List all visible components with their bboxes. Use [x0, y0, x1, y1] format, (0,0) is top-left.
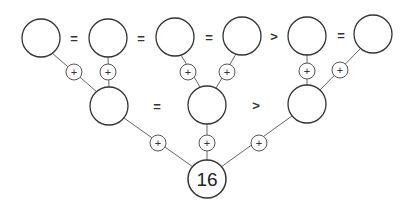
- node-t4[interactable]: [223, 17, 261, 55]
- node-m3[interactable]: [288, 85, 326, 123]
- operator-m2-m3: >: [252, 98, 260, 113]
- operator-t2-t3: =: [137, 31, 145, 46]
- plus-icon: +: [155, 137, 161, 149]
- operator-t4-t5: >: [270, 29, 278, 44]
- plus-icon: +: [337, 64, 343, 76]
- plus-icon: +: [204, 137, 210, 149]
- operator-t1-t2: =: [70, 31, 78, 46]
- node-t1[interactable]: [22, 19, 60, 57]
- plus-icon: +: [71, 66, 77, 78]
- node-t3[interactable]: [156, 18, 194, 56]
- plus-icon: +: [304, 65, 310, 77]
- node-t2[interactable]: [89, 19, 127, 57]
- plus-icon: +: [105, 66, 111, 78]
- node-t6[interactable]: [354, 15, 392, 53]
- plus-icon: +: [224, 66, 230, 78]
- node-t5[interactable]: [288, 17, 326, 55]
- node-m2[interactable]: [188, 86, 226, 124]
- plus-icon: +: [185, 66, 191, 78]
- operator-m1-m2: =: [153, 99, 161, 114]
- result-value: 16: [196, 169, 217, 190]
- operator-t5-t6: =: [337, 28, 345, 43]
- node-m1[interactable]: [90, 87, 128, 125]
- plus-icon: +: [256, 137, 262, 149]
- sum-pyramid-puzzle: = = = > = + + + + + + = > + +: [0, 0, 413, 207]
- operator-t3-t4: =: [205, 30, 213, 45]
